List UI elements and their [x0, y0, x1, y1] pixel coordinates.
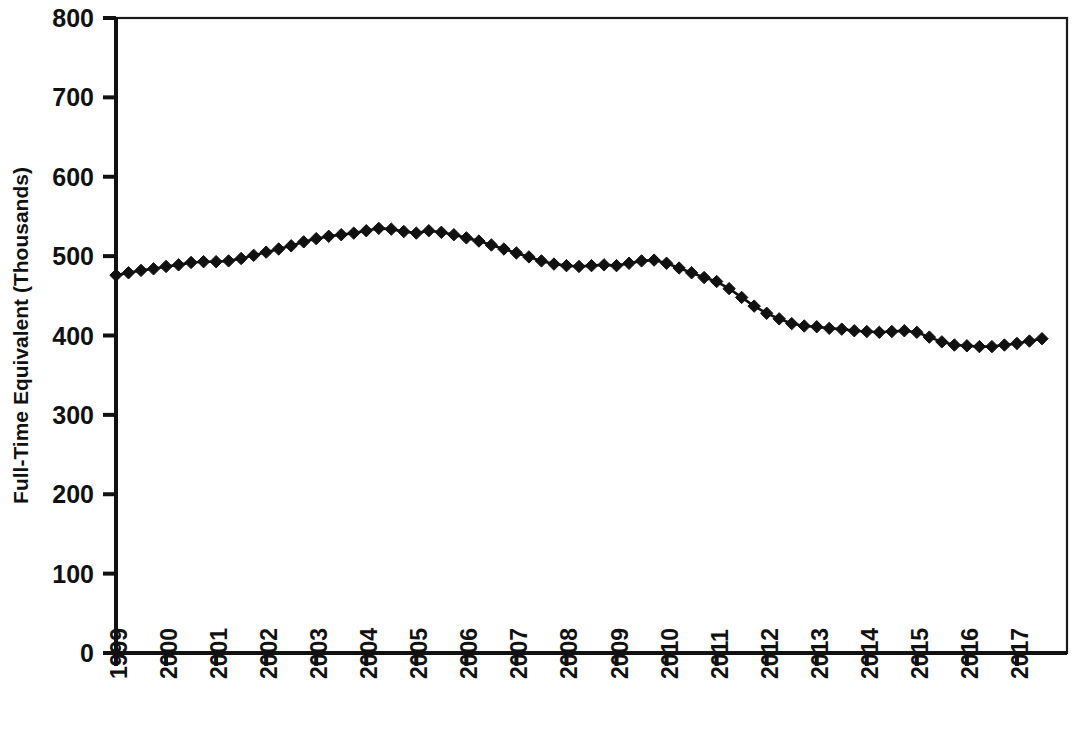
x-tick-label: 2017	[1007, 628, 1033, 679]
data-point-marker	[235, 252, 247, 264]
data-point-marker	[448, 228, 460, 240]
data-point-marker	[573, 260, 585, 272]
data-point-marker	[398, 225, 410, 237]
data-point-marker	[660, 257, 672, 269]
x-tick-label: 2015	[907, 628, 933, 679]
data-point-marker	[623, 257, 635, 269]
y-tick-label: 600	[52, 163, 94, 191]
data-point-marker	[473, 235, 485, 247]
y-tick-label: 700	[52, 83, 94, 111]
data-point-marker	[861, 325, 873, 337]
x-tick-label: 2010	[657, 628, 683, 679]
data-point-marker	[272, 243, 284, 255]
data-point-marker	[973, 340, 985, 352]
data-point-marker	[548, 258, 560, 270]
x-tick-label: 2005	[406, 628, 432, 679]
data-point-marker	[635, 255, 647, 267]
data-point-marker	[310, 232, 322, 244]
data-point-marker	[1023, 335, 1035, 347]
x-tick-label: 2013	[807, 628, 833, 679]
data-point-marker	[435, 226, 447, 238]
data-point-marker	[385, 223, 397, 235]
chart-figure: 0100200300400500600700800 19992000200120…	[0, 0, 1072, 731]
x-tick-label: 2011	[707, 629, 733, 679]
data-point-marker	[373, 222, 385, 234]
data-point-marker	[348, 227, 360, 239]
data-point-marker	[498, 243, 510, 255]
data-point-marker	[185, 256, 197, 268]
data-point-marker	[1036, 332, 1048, 344]
data-point-marker	[423, 225, 435, 237]
data-point-marker	[297, 236, 309, 248]
data-point-marker	[898, 325, 910, 337]
data-point-marker	[873, 326, 885, 338]
data-point-marker	[848, 325, 860, 337]
x-tick-label: 2006	[456, 628, 482, 679]
y-axis: 0100200300400500600700800	[52, 4, 116, 667]
data-point-marker	[948, 339, 960, 351]
data-point-marker	[811, 321, 823, 333]
data-point-marker	[710, 275, 722, 287]
x-tick-label: 2014	[857, 628, 883, 679]
data-point-marker	[360, 225, 372, 237]
x-tick-label: 2001	[206, 628, 232, 679]
line-chart: 0100200300400500600700800 19992000200120…	[0, 0, 1072, 731]
data-point-marker	[122, 267, 134, 279]
data-point-marker	[222, 255, 234, 267]
x-tick-label: 2009	[607, 628, 633, 679]
data-point-marker	[798, 320, 810, 332]
y-tick-label: 0	[80, 639, 94, 667]
data-point-marker	[936, 336, 948, 348]
data-point-marker	[961, 340, 973, 352]
data-point-marker	[135, 264, 147, 276]
data-point-marker	[760, 307, 772, 319]
data-point-marker	[673, 262, 685, 274]
x-tick-label: 2002	[256, 628, 282, 679]
x-tick-label: 2008	[556, 628, 582, 679]
x-tick-label: 2000	[156, 628, 182, 679]
data-point-marker	[911, 326, 923, 338]
data-point-marker	[147, 263, 159, 275]
data-point-marker	[510, 247, 522, 259]
x-tick-label: 2016	[957, 628, 983, 679]
data-point-marker	[523, 251, 535, 263]
data-point-marker	[335, 228, 347, 240]
y-axis-title: Full-Time Equivalent (Thousands)	[9, 167, 32, 504]
data-point-marker	[986, 340, 998, 352]
data-point-marker	[585, 259, 597, 271]
x-tick-label: 1999	[106, 628, 132, 679]
data-point-marker	[923, 331, 935, 343]
data-point-marker	[485, 239, 497, 251]
data-point-marker	[160, 260, 172, 272]
data-point-marker	[110, 269, 122, 281]
data-point-marker	[172, 259, 184, 271]
data-point-marker	[410, 227, 422, 239]
y-axis-label: Full-Time Equivalent (Thousands)	[9, 167, 32, 504]
data-point-marker	[648, 254, 660, 266]
data-point-marker	[1011, 337, 1023, 349]
data-point-marker	[210, 255, 222, 267]
data-point-marker	[460, 232, 472, 244]
data-point-marker	[823, 322, 835, 334]
y-tick-label: 800	[52, 4, 94, 32]
data-point-marker	[260, 246, 272, 258]
data-point-marker	[247, 249, 259, 261]
x-axis: 1999200020012002200320042005200620072008…	[106, 628, 1067, 679]
y-tick-label: 300	[52, 401, 94, 429]
data-point-marker	[998, 339, 1010, 351]
data-point-marker	[836, 323, 848, 335]
x-tick-label: 2004	[356, 628, 382, 679]
data-point-marker	[698, 271, 710, 283]
data-point-marker	[773, 313, 785, 325]
data-point-marker	[786, 317, 798, 329]
y-tick-label: 100	[52, 560, 94, 588]
data-point-marker	[685, 267, 697, 279]
data-series-line	[110, 222, 1048, 353]
data-point-marker	[598, 259, 610, 271]
y-tick-label: 200	[52, 480, 94, 508]
data-point-marker	[285, 240, 297, 252]
x-tick-label: 2007	[506, 628, 532, 679]
y-tick-label: 400	[52, 322, 94, 350]
x-tick-label: 2012	[757, 628, 783, 679]
data-point-marker	[610, 259, 622, 271]
